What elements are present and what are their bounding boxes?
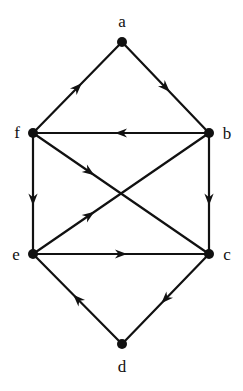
graph-edge bbox=[204, 133, 213, 254]
graph-edge bbox=[33, 249, 209, 258]
graph-node-d[interactable] bbox=[117, 339, 127, 349]
graph-edge bbox=[33, 42, 122, 133]
graph-edge bbox=[33, 128, 209, 137]
graph-edge bbox=[122, 42, 209, 133]
graph-edge bbox=[122, 254, 209, 344]
directed-graph-figure: abcdef bbox=[0, 0, 243, 391]
graph-node-f[interactable] bbox=[28, 128, 38, 138]
graph-edge bbox=[28, 133, 37, 254]
node-label-f: f bbox=[14, 124, 20, 141]
node-label-c: c bbox=[223, 246, 231, 263]
graph-node-c[interactable] bbox=[204, 249, 214, 259]
edge-arrowhead bbox=[82, 164, 97, 178]
node-label-a: a bbox=[118, 13, 126, 30]
edge-layer bbox=[28, 42, 213, 344]
edge-arrowhead bbox=[82, 208, 97, 222]
graph-node-b[interactable] bbox=[204, 128, 214, 138]
graph-node-a[interactable] bbox=[117, 37, 127, 47]
node-label-e: e bbox=[12, 246, 20, 263]
graph-canvas bbox=[0, 0, 243, 391]
node-label-b: b bbox=[223, 125, 232, 142]
node-label-d: d bbox=[118, 358, 127, 375]
graph-node-e[interactable] bbox=[28, 249, 38, 259]
graph-edge bbox=[33, 254, 122, 344]
